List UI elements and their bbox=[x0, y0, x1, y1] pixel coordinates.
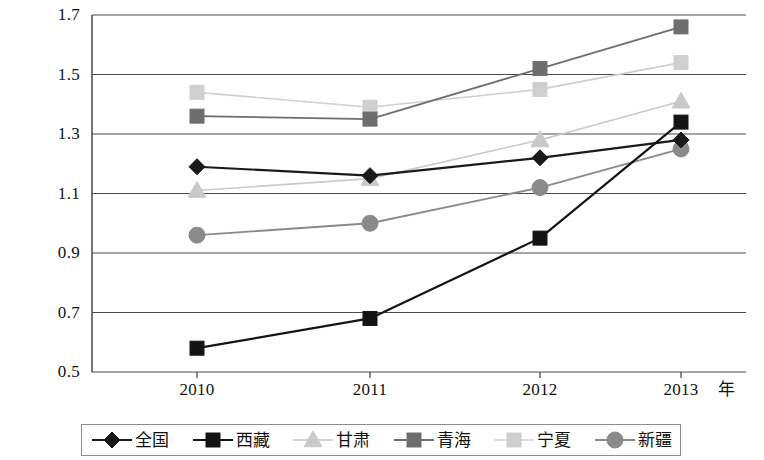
series-青海 bbox=[190, 20, 688, 126]
legend-item-青海[interactable]: 青海 bbox=[392, 425, 471, 455]
marker-square bbox=[674, 56, 688, 70]
marker-square bbox=[533, 62, 547, 76]
plot-svg bbox=[0, 0, 764, 400]
marker-square bbox=[363, 311, 377, 325]
x-axis-unit-label: 年 bbox=[718, 381, 735, 398]
marker-square bbox=[363, 112, 377, 126]
x-tick-label: 2011 bbox=[353, 381, 388, 398]
legend-item-新疆[interactable]: 新疆 bbox=[593, 425, 672, 455]
x-tick-label: 2013 bbox=[663, 381, 698, 398]
legend-swatch-diamond-icon bbox=[90, 430, 134, 450]
series-line-西藏 bbox=[197, 122, 681, 348]
legend-label: 全国 bbox=[135, 432, 169, 449]
marker-square bbox=[190, 85, 204, 99]
marker-diamond bbox=[532, 150, 548, 166]
marker-circle bbox=[532, 180, 548, 196]
x-tick-label: 2012 bbox=[522, 381, 557, 398]
line-chart: 0.50.70.91.11.31.51.7 2010201120122013 年… bbox=[0, 0, 764, 460]
plot-area bbox=[0, 0, 764, 400]
marker-square bbox=[674, 115, 688, 129]
marker-square bbox=[206, 433, 220, 447]
x-tick-label: 2010 bbox=[179, 381, 214, 398]
series-line-新疆 bbox=[197, 149, 681, 235]
y-tick-label: 1.5 bbox=[8, 66, 80, 83]
marker-square bbox=[507, 433, 521, 447]
legend-swatch-triangle-icon bbox=[291, 430, 335, 450]
legend-label: 新疆 bbox=[638, 432, 672, 449]
y-tick-label: 1.1 bbox=[8, 185, 80, 202]
legend-swatch-square-icon bbox=[392, 430, 436, 450]
y-tick-label: 1.7 bbox=[8, 6, 80, 23]
legend-swatch-square-icon bbox=[492, 430, 536, 450]
legend-item-全国[interactable]: 全国 bbox=[90, 425, 169, 455]
series-西藏 bbox=[190, 115, 688, 355]
marker-triangle bbox=[672, 92, 690, 108]
legend-swatch-square-icon bbox=[191, 430, 235, 450]
series-line-青海 bbox=[197, 27, 681, 119]
marker-circle bbox=[607, 432, 623, 448]
legend: 全国西藏甘肃青海宁夏新疆 bbox=[81, 424, 681, 456]
marker-square bbox=[407, 433, 421, 447]
y-tick-label: 0.9 bbox=[8, 244, 80, 261]
marker-square bbox=[533, 82, 547, 96]
y-axis-tick-labels: 0.50.70.91.11.31.51.7 bbox=[8, 0, 80, 400]
marker-diamond bbox=[104, 432, 120, 448]
legend-item-甘肃[interactable]: 甘肃 bbox=[291, 425, 370, 455]
y-tick-label: 1.3 bbox=[8, 125, 80, 142]
marker-triangle bbox=[304, 431, 322, 447]
y-tick-label: 0.5 bbox=[8, 363, 80, 380]
marker-circle bbox=[362, 215, 378, 231]
legend-label: 甘肃 bbox=[336, 432, 370, 449]
marker-diamond bbox=[189, 159, 205, 175]
legend-item-西藏[interactable]: 西藏 bbox=[191, 425, 270, 455]
series-line-甘肃 bbox=[197, 101, 681, 190]
legend-item-宁夏[interactable]: 宁夏 bbox=[492, 425, 571, 455]
series-宁夏 bbox=[190, 56, 688, 115]
marker-square bbox=[190, 341, 204, 355]
series-line-全国 bbox=[197, 140, 681, 176]
marker-square bbox=[533, 231, 547, 245]
y-tick-label: 0.7 bbox=[8, 304, 80, 321]
marker-square bbox=[190, 109, 204, 123]
legend-label: 宁夏 bbox=[537, 432, 571, 449]
series-甘肃 bbox=[188, 92, 690, 197]
legend-label: 青海 bbox=[437, 432, 471, 449]
legend-label: 西藏 bbox=[236, 432, 270, 449]
series-line-宁夏 bbox=[197, 63, 681, 108]
marker-circle bbox=[189, 227, 205, 243]
legend-swatch-circle-icon bbox=[593, 430, 637, 450]
x-axis-tick-labels: 2010201120122013 bbox=[0, 381, 764, 407]
series-新疆 bbox=[189, 141, 689, 243]
marker-square bbox=[674, 20, 688, 34]
